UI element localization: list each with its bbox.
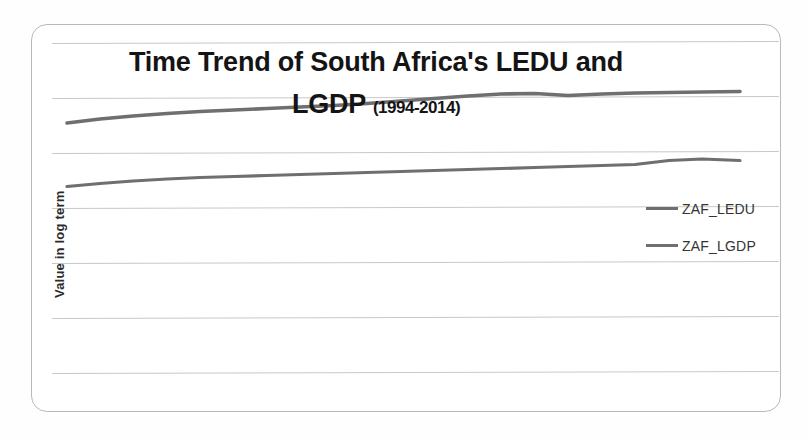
chart-legend: ZAF_LEDU ZAF_LGDP <box>646 190 756 264</box>
chart-title-year-range: (1994-2014) <box>373 98 460 117</box>
chart-title-subject: LGDP <box>292 89 366 119</box>
chart-title-line-1: Time Trend of South Africa's LEDU and <box>96 41 656 83</box>
series-line-zaf-ledu <box>67 159 740 187</box>
legend-label: ZAF_LEDU <box>682 201 755 217</box>
legend-item-zaf-ledu[interactable]: ZAF_LEDU <box>646 190 756 227</box>
y-axis-label-text: Value in log term <box>52 148 67 298</box>
legend-item-zaf-lgdp[interactable]: ZAF_LGDP <box>646 227 756 264</box>
legend-swatch-icon <box>646 244 678 247</box>
chart-title: Time Trend of South Africa's LEDU and LG… <box>96 41 656 129</box>
y-axis-label: Value in log term <box>52 0 70 148</box>
chart-title-line-2: LGDP (1994-2014) <box>96 83 656 129</box>
legend-label: ZAF_LGDP <box>682 238 756 254</box>
gridline <box>52 372 779 374</box>
gridline <box>52 152 779 154</box>
legend-swatch-icon <box>646 207 678 210</box>
gridline <box>52 317 779 319</box>
